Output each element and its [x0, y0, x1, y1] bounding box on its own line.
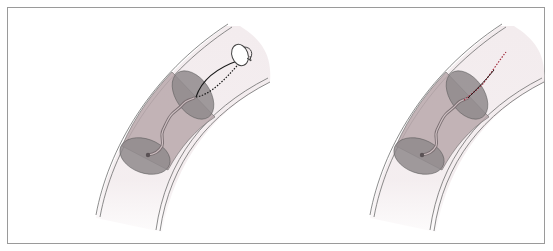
panel-right: [370, 24, 544, 232]
panel-left: [96, 24, 270, 232]
diagram-canvas: [0, 0, 553, 251]
